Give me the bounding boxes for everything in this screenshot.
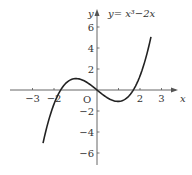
y-tick-label: −4 bbox=[79, 127, 94, 138]
x-tick-label: 3 bbox=[158, 93, 164, 104]
x-axis-arrow-icon bbox=[171, 88, 178, 93]
y-tick-label: 6 bbox=[88, 22, 94, 33]
y-axis-label: y bbox=[87, 8, 94, 19]
y-tick-label: 2 bbox=[88, 64, 94, 75]
x-tick-label: −3 bbox=[25, 93, 40, 104]
equation-label: y= x³−2x bbox=[107, 8, 156, 19]
y-axis-arrow-icon bbox=[95, 9, 100, 16]
y-tick-label: 4 bbox=[88, 43, 94, 54]
y-tick-label: −2 bbox=[79, 106, 94, 117]
origin-label: O bbox=[83, 94, 91, 105]
x-tick-label: 2 bbox=[137, 93, 143, 104]
x-axis-label: x bbox=[180, 93, 186, 104]
y-tick-label: −6 bbox=[79, 148, 94, 159]
cubic-function-graph: −3−223−6−4−2246 y= x³−2x y x O bbox=[0, 0, 192, 175]
